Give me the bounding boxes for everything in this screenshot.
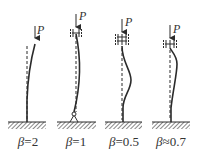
load-label-1: P bbox=[37, 23, 44, 38]
top-clamp-icon-4 bbox=[163, 40, 177, 48]
column-1-fixed-free bbox=[8, 26, 46, 129]
beta-label-3: β=0.5 bbox=[109, 134, 139, 150]
buckled-shape-3 bbox=[122, 46, 131, 122]
buckled-shape-1 bbox=[27, 44, 35, 122]
ground-hatch-1 bbox=[8, 122, 46, 129]
ground-hatch-2 bbox=[57, 122, 96, 129]
buckled-shape-4 bbox=[170, 48, 177, 122]
column-buckling-diagram: P P P P β=2 β=1 β=0.5 β≈0.7 bbox=[0, 0, 202, 160]
column-4-fixed-pinned bbox=[152, 25, 190, 129]
top-clamp-icon bbox=[115, 34, 129, 45]
load-label-2: P bbox=[79, 9, 86, 24]
load-label-4: P bbox=[173, 22, 180, 37]
buckled-shape-2 bbox=[74, 34, 80, 112]
beta-label-1: β=2 bbox=[18, 134, 38, 150]
ground-hatch-3 bbox=[105, 122, 142, 129]
beta-label-4: β≈0.7 bbox=[156, 134, 186, 150]
beta-label-2: β=1 bbox=[66, 134, 86, 150]
load-label-3: P bbox=[125, 15, 132, 30]
ground-hatch-4 bbox=[152, 122, 190, 129]
pin-support-icon bbox=[70, 112, 78, 122]
column-2-pinned bbox=[57, 14, 96, 129]
column-3-fixed-fixed bbox=[105, 19, 142, 129]
